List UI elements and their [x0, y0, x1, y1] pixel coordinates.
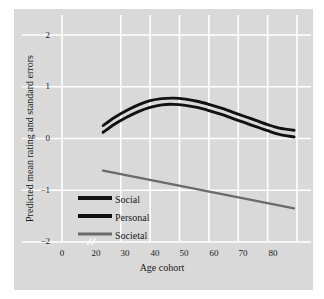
legend-label-personal: Personal: [115, 212, 149, 223]
x-tick-label-60: 60: [202, 248, 226, 258]
x-tick-label-0: 0: [50, 248, 74, 258]
x-tick-label-50: 50: [172, 248, 196, 258]
x-tick-label-70: 70: [231, 248, 255, 258]
x-tick-label-80: 80: [261, 248, 285, 258]
x-tick-label-30: 30: [113, 248, 137, 258]
x-tick-label-20: 20: [84, 248, 108, 258]
legend-swatches: [78, 198, 112, 234]
legend-label-societal: Societal: [115, 230, 147, 241]
legend-label-social: Social: [115, 194, 140, 205]
x-tick-label-40: 40: [143, 248, 167, 258]
y-axis-title: Predicted mean rating and standard error…: [24, 29, 35, 249]
chart-figure: 2 1 0 −1 −2 0 20 30 40 50 60 70 80 Age c…: [0, 0, 324, 299]
data-series-layer: [103, 98, 294, 208]
x-axis-title: Age cohort: [0, 262, 324, 273]
